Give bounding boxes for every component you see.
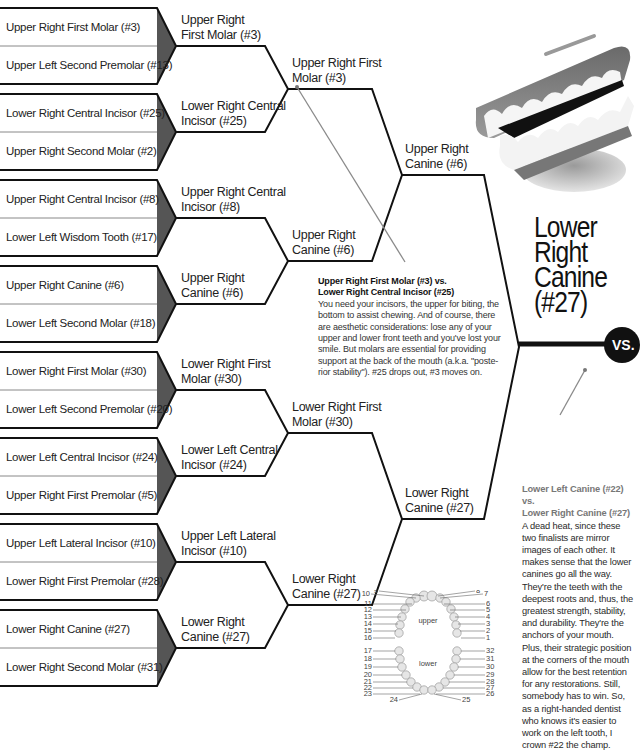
tooth-icon	[427, 591, 437, 601]
note-heading: Lower Right Canine (#27)	[522, 507, 636, 519]
tooth-icon	[395, 629, 403, 637]
tooth-icon	[452, 621, 460, 629]
tooth-icon	[396, 621, 404, 629]
tooth-icon	[395, 647, 403, 655]
tooth-icon	[396, 655, 404, 663]
winner-line: Lower Right First	[292, 400, 381, 415]
tooth-number: 1	[486, 633, 490, 642]
round2-winner: Upper Left LateralIncisor (#10)	[181, 529, 276, 559]
round1-competitor: Lower Right Canine (#27)	[6, 623, 130, 635]
leader-line	[434, 694, 461, 700]
matchup-arrow	[157, 352, 176, 428]
winner-line: Canine (#6)	[405, 157, 468, 172]
tooth-icon	[450, 663, 458, 671]
winner-line: Canine (#27)	[405, 501, 474, 516]
winner-line: Upper Right Central	[181, 185, 286, 200]
round2-winner: Upper Right CentralIncisor (#8)	[181, 185, 286, 215]
round1-competitor: Upper Right Canine (#6)	[6, 279, 124, 291]
round1-competitor: Lower Right First Molar (#30)	[6, 365, 146, 377]
round1-competitor: Lower Left Central Incisor (#24)	[6, 451, 157, 463]
leader-line	[399, 694, 422, 700]
tooth-icon	[442, 598, 450, 606]
tooth-number: 10	[362, 590, 370, 598]
tooth-number: 23	[364, 689, 372, 698]
tooth-number: 26	[486, 689, 494, 698]
round2-winner: Lower Right FirstMolar (#30)	[181, 357, 270, 387]
round2-winner: Lower Right CentralIncisor (#25)	[181, 99, 286, 129]
winner-line: Canine (#27)	[292, 587, 361, 602]
round4-winner: Upper RightCanine (#6)	[405, 142, 468, 172]
winner-line: Canine (#6)	[292, 243, 355, 258]
matchup-arrow	[157, 438, 176, 514]
commentary-note-semifinal: Upper Right First Molar (#3) vs. Lower R…	[318, 276, 510, 379]
round3-winner: Upper Right FirstMolar (#3)	[292, 56, 381, 86]
matchup-arrow	[157, 524, 176, 600]
tooth-icon	[420, 686, 428, 694]
round1-competitor: Upper Right First Molar (#3)	[6, 21, 140, 33]
finalist-name: Lower Right Canine (#27)	[534, 214, 607, 314]
round1-competitor: Upper Left Second Premolar (#13)	[6, 59, 172, 71]
pointer-line-note2	[560, 370, 585, 415]
note-body: You need your incisors, the upper for bi…	[318, 299, 501, 377]
winner-line: Incisor (#24)	[181, 458, 278, 473]
winner-line: First Molar (#3)	[181, 28, 261, 43]
round4-winner: Lower RightCanine (#27)	[405, 486, 474, 516]
matchup-arrow	[157, 8, 176, 84]
commentary-note-final: Lower Left Canine (#22) vs. Lower Right …	[522, 483, 636, 751]
winner-line: Lower Left Central	[181, 443, 278, 458]
round1-competitor: Upper Right Central Incisor (#8)	[6, 193, 159, 205]
tooth-number: 7	[484, 590, 488, 598]
round2-winner: Upper RightCanine (#6)	[181, 271, 244, 301]
winner-line: Lower Right	[292, 572, 361, 587]
winner-line: Molar (#3)	[292, 71, 381, 86]
winner-line: Upper Right First	[292, 56, 381, 71]
tooth-icon	[406, 598, 414, 606]
round1-competitor: Lower Left Second Molar (#18)	[6, 317, 155, 329]
pointer-dot-note2	[583, 368, 587, 372]
round1-competitor: Upper Left Lateral Incisor (#10)	[6, 537, 156, 549]
tooth-icon	[453, 629, 461, 637]
round1-competitor: Lower Left Second Premolar (#20)	[6, 403, 172, 415]
lower-arch-label: lower	[419, 659, 437, 668]
tooth-number: 16	[364, 633, 372, 642]
vs-badge: VS.	[604, 327, 640, 363]
tooth-number: 9	[374, 590, 378, 595]
winner-line: Lower Right First	[181, 357, 270, 372]
note-heading: Upper Right First Molar (#3) vs.	[318, 276, 510, 287]
round1-competitor: Lower Right Second Molar (#31)	[6, 661, 163, 673]
winner-line: Molar (#30)	[181, 372, 270, 387]
note-heading: Lower Right Central Incisor (#25)	[318, 287, 510, 298]
tooth-icon	[398, 663, 406, 671]
round3-winner: Lower Right FirstMolar (#30)	[292, 400, 381, 430]
round1-competitor: Lower Left Wisdom Tooth (#17)	[6, 231, 157, 243]
winner-line: Canine (#27)	[181, 630, 250, 645]
tooth-icon	[447, 605, 455, 613]
tooth-icon	[446, 671, 454, 679]
round3-winner: Lower RightCanine (#27)	[292, 572, 361, 602]
tooth-icon	[402, 671, 410, 679]
upper-arch-label: upper	[418, 616, 438, 625]
note-heading: Lower Left Canine (#22) vs.	[522, 483, 636, 507]
matchup-arrow	[157, 266, 176, 342]
winner-line: Incisor (#8)	[181, 200, 286, 215]
tooth-icon	[452, 655, 460, 663]
winner-line: Upper Right	[405, 142, 468, 157]
tooth-icon	[401, 605, 409, 613]
tooth-icon	[428, 686, 436, 694]
wind-up-teeth-illustration	[474, 20, 636, 200]
round1-competitor: Upper Right First Premolar (#5)	[6, 489, 157, 501]
round2-winner: Upper RightFirst Molar (#3)	[181, 13, 261, 43]
note-body: A dead heat, since these two finalists a…	[522, 521, 633, 751]
winner-line: Upper Right	[181, 13, 261, 28]
winner-line: Upper Right	[292, 228, 355, 243]
winner-line: Incisor (#10)	[181, 544, 276, 559]
tooth-number: 25	[462, 695, 470, 704]
tooth-icon	[453, 647, 461, 655]
winner-line: Upper Right	[181, 271, 244, 286]
winner-line: Canine (#6)	[181, 286, 244, 301]
winner-line: Molar (#30)	[292, 415, 381, 430]
matchup-arrow	[157, 94, 176, 170]
matchup-arrow	[157, 180, 176, 256]
tooth-number: 24	[390, 695, 398, 704]
round2-winner: Lower Left CentralIncisor (#24)	[181, 443, 278, 473]
